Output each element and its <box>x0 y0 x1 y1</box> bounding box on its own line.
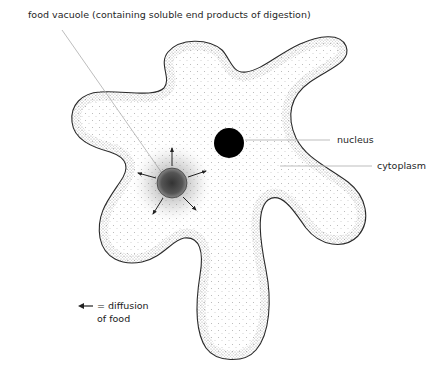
food-vacuole <box>157 168 187 198</box>
legend-text-line1: = diffusion <box>97 299 149 312</box>
arrow-left-icon <box>78 302 94 310</box>
nucleus <box>214 128 244 158</box>
amoeba-diagram <box>0 0 446 381</box>
legend-text-line2: of food <box>78 312 149 325</box>
food-vacuole-label: food vacuole (containing soluble end pro… <box>28 9 311 21</box>
cytoplasm-label: cytoplasm <box>377 160 426 172</box>
nucleus-label: nucleus <box>337 134 374 146</box>
legend: = diffusion of food <box>78 299 149 325</box>
